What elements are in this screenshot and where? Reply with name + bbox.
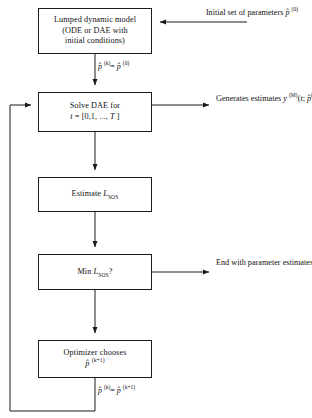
- initial-line-2: parameters: [248, 8, 284, 17]
- lumped-dynamic-model-box: Lumped dynamic model (ODE or DAE with in…: [38, 8, 152, 54]
- optimizer-chooses-box: Optimizer chooses p̂ (k+1): [38, 340, 152, 378]
- optimizer-line-2: p̂ (k+1): [85, 359, 104, 370]
- model-line-3: initial conditions): [65, 36, 125, 47]
- end-line-1: End with parameter: [216, 258, 281, 267]
- min-lsos-decision-box: Min LSOS?: [38, 254, 152, 290]
- initial-line-1: Initial set of: [206, 8, 246, 17]
- min-label: Min LSOS?: [77, 267, 112, 278]
- initial-line-3: p̂ (0): [285, 8, 298, 17]
- end-with-parameters-annotation: End with parameter estimates p̂(k): [216, 258, 312, 269]
- end-line-2: estimates p̂(k): [283, 258, 312, 267]
- loop-assignment-label: p̂ (k)= p̂ (k+1): [98, 386, 135, 396]
- solve-dae-box: Solve DAE for t = [0,1, ..., T ]: [38, 92, 152, 132]
- generates-line-2: y (M)(t; p̂(k)): [283, 94, 312, 103]
- solve-line-1: Solve DAE for: [70, 101, 120, 112]
- initial-parameters-annotation: Initial set of parameters p̂ (0): [196, 8, 308, 19]
- solve-line-2: t = [0,1, ..., T ]: [70, 112, 119, 123]
- generates-line-1: Generates estimates: [216, 94, 281, 103]
- model-line-1: Lumped dynamic model: [54, 15, 136, 26]
- initial-assignment-label: p̂ (k)= p̂ (0): [98, 62, 129, 72]
- estimate-lsos-box: Estimate LSOS: [38, 177, 152, 212]
- estimate-label: Estimate LSOS: [72, 189, 119, 200]
- flowchart-canvas: Lumped dynamic model (ODE or DAE with in…: [0, 0, 312, 418]
- generates-estimates-annotation: Generates estimates y (M)(t; p̂(k)): [216, 94, 312, 105]
- model-line-2: (ODE or DAE with: [62, 26, 128, 37]
